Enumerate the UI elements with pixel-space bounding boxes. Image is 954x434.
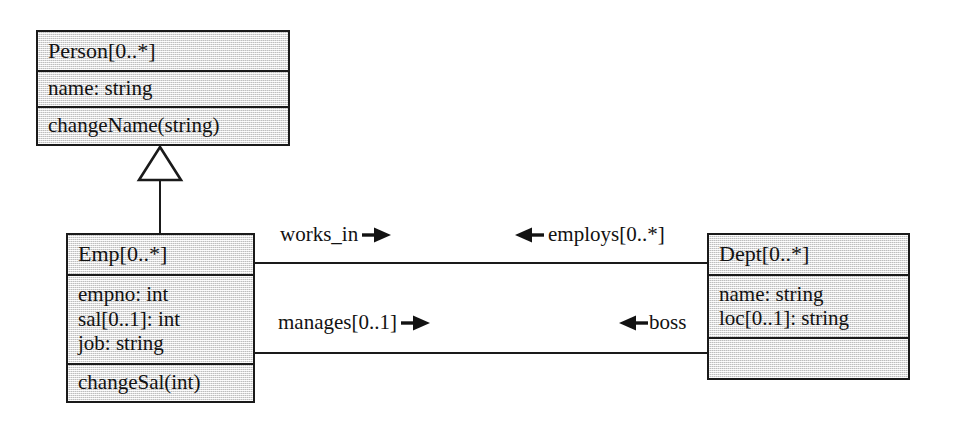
- association-line-manages[interactable]: [255, 352, 707, 354]
- person-attribute: name: string: [48, 76, 288, 100]
- emp-attribute: job: string: [78, 331, 253, 355]
- emp-attribute: sal[0..1]: int: [78, 307, 253, 331]
- association-role-manages: manages[0..1]: [276, 310, 433, 335]
- association-role-works-in: works_in: [278, 222, 394, 247]
- class-box-person[interactable]: Person[0..*] name: string changeName(str…: [36, 30, 290, 146]
- works-in-label: works_in: [280, 222, 358, 247]
- person-operations-compartment: changeName(string): [38, 106, 288, 144]
- generalization-triangle-icon: [136, 146, 184, 182]
- person-name-compartment: Person[0..*]: [38, 32, 288, 70]
- dept-attribute: name: string: [719, 282, 908, 306]
- boss-label: boss: [649, 310, 686, 335]
- manages-label: manages[0..1]: [278, 310, 397, 335]
- association-role-boss: boss: [616, 310, 688, 335]
- employs-label: employs[0..*]: [548, 222, 665, 247]
- arrow-left-icon: [618, 314, 648, 332]
- person-attributes-compartment: name: string: [38, 70, 288, 106]
- emp-name-compartment: Emp[0..*]: [68, 235, 253, 274]
- generalization-stem: [159, 180, 161, 234]
- person-class-name: Person[0..*]: [48, 38, 288, 64]
- dept-attribute: loc[0..1]: string: [719, 306, 908, 330]
- emp-attribute: empno: int: [78, 282, 253, 306]
- uml-class-diagram-canvas: Person[0..*] name: string changeName(str…: [0, 0, 954, 434]
- association-role-employs: employs[0..*]: [512, 222, 667, 247]
- person-operation: changeName(string): [48, 113, 288, 137]
- emp-operations-compartment: changeSal(int): [68, 363, 253, 401]
- association-line-works-in[interactable]: [255, 262, 707, 264]
- dept-name-compartment: Dept[0..*]: [709, 235, 908, 274]
- arrow-left-icon: [514, 226, 544, 244]
- emp-attributes-compartment: empno: int sal[0..1]: int job: string: [68, 274, 253, 363]
- class-box-dept[interactable]: Dept[0..*] name: string loc[0..1]: strin…: [707, 233, 910, 380]
- dept-operations-compartment: [709, 337, 908, 378]
- dept-attributes-compartment: name: string loc[0..1]: string: [709, 274, 908, 337]
- arrow-right-icon: [362, 226, 392, 244]
- emp-class-name: Emp[0..*]: [78, 241, 253, 267]
- class-box-emp[interactable]: Emp[0..*] empno: int sal[0..1]: int job:…: [66, 233, 255, 403]
- arrow-right-icon: [401, 314, 431, 332]
- dept-class-name: Dept[0..*]: [719, 241, 908, 267]
- emp-operation: changeSal(int): [78, 370, 253, 394]
